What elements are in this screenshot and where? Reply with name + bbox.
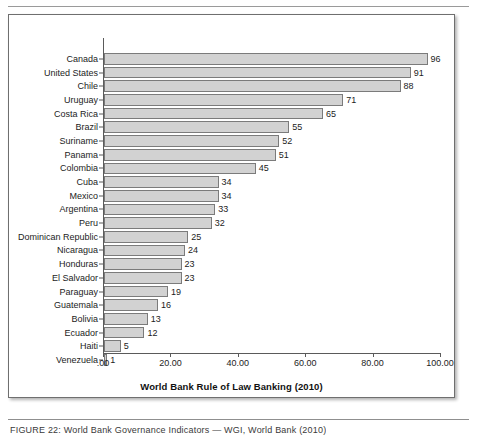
- bar: [104, 327, 144, 339]
- category-label: Cuba: [76, 178, 98, 187]
- x-axis-tick-mark: [305, 353, 306, 357]
- bar-value-label: 65: [323, 109, 336, 118]
- bar-value-label: 45: [256, 164, 269, 173]
- bar: [104, 80, 401, 92]
- category-label: Suriname: [59, 136, 98, 145]
- x-axis-tick-label: 80.00: [361, 359, 384, 368]
- bar-value-label: 19: [168, 287, 181, 296]
- y-axis-tick: [99, 195, 103, 196]
- bar-container: 65: [104, 108, 454, 120]
- bar-row: Guatemala16: [9, 298, 454, 312]
- bar-row: El Salvador23: [9, 271, 454, 285]
- bar-container: 24: [104, 245, 454, 257]
- x-axis-tick-mark: [103, 353, 104, 357]
- y-axis-tick: [99, 223, 103, 224]
- y-axis-tick: [99, 209, 103, 210]
- y-axis-tick: [99, 318, 103, 319]
- bar: [104, 94, 343, 106]
- bar: [104, 121, 289, 133]
- bar-value-label: 34: [219, 191, 232, 200]
- bar-value-label: 52: [279, 136, 292, 145]
- bar-row: Cuba34: [9, 175, 454, 189]
- category-label: Bolivia: [71, 314, 98, 323]
- bar-value-label: 96: [428, 54, 441, 63]
- y-axis-tick: [99, 264, 103, 265]
- bar-row: Bolivia13: [9, 312, 454, 326]
- x-axis-tick-mark: [373, 353, 374, 357]
- category-label: Argentina: [59, 205, 98, 214]
- y-axis-tick: [99, 250, 103, 251]
- bar-container: 45: [104, 163, 454, 175]
- y-axis-tick: [99, 154, 103, 155]
- bar-container: 33: [104, 204, 454, 216]
- bar: [104, 163, 256, 175]
- y-axis-tick: [99, 72, 103, 73]
- x-axis-tick-label: .00: [97, 359, 110, 368]
- bar: [104, 231, 188, 243]
- bar-row: Colombia45: [9, 162, 454, 176]
- category-label: Brazil: [75, 123, 98, 132]
- bar-container: 25: [104, 231, 454, 243]
- x-axis-tick-mark: [170, 353, 171, 357]
- bar-value-label: 23: [182, 260, 195, 269]
- bar-row: Honduras23: [9, 257, 454, 271]
- bar-row: Suriname52: [9, 134, 454, 148]
- category-label: Guatemala: [54, 301, 98, 310]
- category-label: Haiti: [80, 342, 98, 351]
- bar-row: Argentina33: [9, 203, 454, 217]
- bar-row: Dominican Republic25: [9, 230, 454, 244]
- bar-value-label: 51: [276, 150, 289, 159]
- bar-value-label: 25: [188, 232, 201, 241]
- y-axis-tick: [99, 305, 103, 306]
- bar: [104, 135, 279, 147]
- bar-container: 88: [104, 80, 454, 92]
- bar-value-label: 5: [121, 342, 129, 351]
- bar-value-label: 12: [144, 328, 157, 337]
- y-axis-tick: [99, 168, 103, 169]
- bar-row: Costa Rica65: [9, 107, 454, 121]
- bar: [104, 67, 411, 79]
- bar-container: 55: [104, 121, 454, 133]
- bar: [104, 217, 212, 229]
- page-rule-bottom: [8, 419, 469, 420]
- y-axis-tick: [99, 99, 103, 100]
- bar-row: Uruguay71: [9, 93, 454, 107]
- bar: [104, 286, 168, 298]
- category-label: Canada: [66, 54, 98, 63]
- bar-value-label: 24: [185, 246, 198, 255]
- page-rule-top: [8, 6, 469, 7]
- bar-container: 19: [104, 286, 454, 298]
- bar: [104, 299, 158, 311]
- bar-container: 52: [104, 135, 454, 147]
- bar: [104, 190, 219, 202]
- bar-row: Panama51: [9, 148, 454, 162]
- category-label: El Salvador: [52, 273, 98, 282]
- bar-value-label: 88: [401, 82, 414, 91]
- category-label: United States: [44, 68, 98, 77]
- category-label: Panama: [64, 150, 98, 159]
- bar: [104, 258, 182, 270]
- category-label: Honduras: [59, 260, 98, 269]
- bar-container: 5: [104, 340, 454, 352]
- bar-container: 34: [104, 176, 454, 188]
- bar: [104, 176, 219, 188]
- category-label: Ecuador: [64, 328, 98, 337]
- bar-container: 13: [104, 313, 454, 325]
- bar: [104, 313, 148, 325]
- bar: [104, 149, 276, 161]
- y-axis-tick: [99, 182, 103, 183]
- bar-container: 71: [104, 94, 454, 106]
- bar-row: Paraguay19: [9, 285, 454, 299]
- x-axis-tick-list: .0020.0040.0060.0080.00100.00: [103, 353, 441, 375]
- category-label: Uruguay: [64, 95, 98, 104]
- bar-value-label: 13: [148, 314, 161, 323]
- bar-container: 32: [104, 217, 454, 229]
- y-axis-tick: [99, 277, 103, 278]
- bar-value-label: 55: [289, 123, 302, 132]
- y-axis-tick: [99, 140, 103, 141]
- category-label: Chile: [77, 82, 98, 91]
- figure-frame: Canada96United States91Chile88Uruguay71C…: [8, 14, 455, 398]
- category-label: Costa Rica: [54, 109, 98, 118]
- bar-row: Brazil55: [9, 120, 454, 134]
- x-axis-tick-label: 20.00: [159, 359, 182, 368]
